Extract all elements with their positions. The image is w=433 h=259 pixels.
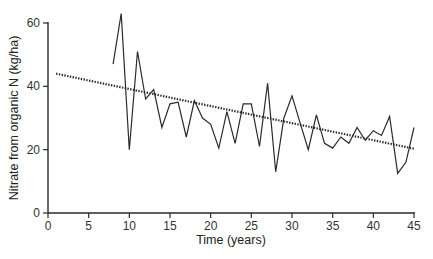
- y-axis-title: Nitrate from organic N (kg/ha): [7, 36, 21, 201]
- x-tick-label: 10: [123, 219, 137, 233]
- x-tick-label: 45: [407, 219, 421, 233]
- observed-series-line: [113, 14, 414, 174]
- y-tick-label: 60: [27, 16, 41, 30]
- x-tick-label: 40: [367, 219, 381, 233]
- x-axis-title: Time (years): [196, 233, 266, 247]
- x-axis: 051015202530354045: [45, 213, 421, 233]
- y-axis: 0204060: [27, 16, 48, 220]
- x-tick-label: 25: [245, 219, 259, 233]
- y-tick-label: 20: [27, 143, 41, 157]
- x-tick-label: 35: [326, 219, 340, 233]
- y-tick-label: 40: [27, 79, 41, 93]
- x-tick-label: 5: [85, 219, 92, 233]
- x-tick-label: 0: [45, 219, 52, 233]
- x-tick-label: 20: [204, 219, 218, 233]
- x-tick-label: 15: [163, 219, 177, 233]
- trend-line: [56, 74, 414, 149]
- x-tick-label: 30: [285, 219, 299, 233]
- line-chart: 0204060 051015202530354045 Time (years) …: [0, 0, 433, 259]
- y-tick-label: 0: [33, 206, 40, 220]
